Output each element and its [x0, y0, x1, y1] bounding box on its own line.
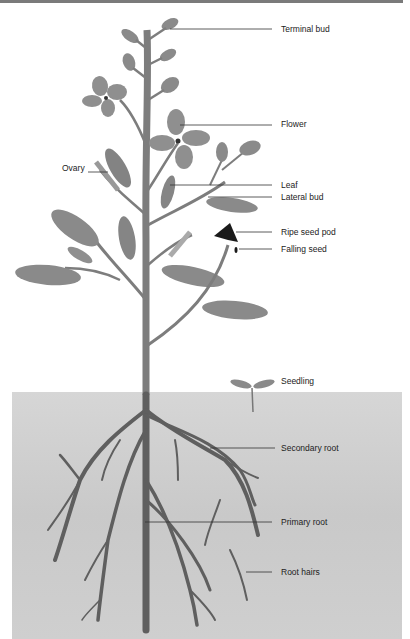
- label-seedling: Seedling: [281, 376, 314, 386]
- seed-pod-icon: [214, 223, 238, 242]
- falling-seed-icon: [235, 247, 238, 253]
- leader-lines: [88, 29, 275, 572]
- plant-illustration: [0, 0, 410, 639]
- flower-left-icon: [82, 75, 127, 117]
- label-falling-seed: Falling seed: [281, 244, 327, 254]
- label-secondary-root: Secondary root: [281, 443, 339, 453]
- label-lateral-bud: Lateral bud: [281, 192, 324, 202]
- label-ovary: Ovary: [62, 163, 85, 173]
- leaf-icon: [158, 174, 178, 210]
- lateral-bud-leaf: [205, 194, 258, 215]
- seedling-icon: [229, 378, 275, 412]
- label-leaf: Leaf: [281, 180, 298, 190]
- label-root-hairs: Root hairs: [281, 567, 320, 577]
- label-ripe-seed-pod: Ripe seed pod: [281, 227, 336, 237]
- root-system: [48, 395, 258, 630]
- label-terminal-bud: Terminal bud: [281, 24, 330, 34]
- flower-right-icon: [149, 109, 210, 169]
- main-stem: [146, 30, 148, 395]
- label-primary-root: Primary root: [281, 517, 327, 527]
- label-flower: Flower: [281, 119, 307, 129]
